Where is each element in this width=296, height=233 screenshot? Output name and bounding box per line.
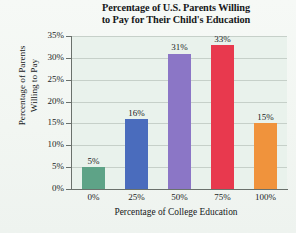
bar-value-label: 31%: [160, 42, 200, 52]
y-axis-tick-label: 5%: [24, 162, 64, 171]
x-axis-title: Percentage of College Education: [60, 207, 292, 217]
x-axis-tick-label: 50%: [157, 192, 203, 202]
y-axis-tick-label: 35%: [24, 31, 64, 40]
y-axis-tick-label: 20%: [24, 97, 64, 106]
chart-title-line-1: Percentage of U.S. Parents Willing: [60, 2, 292, 14]
y-axis-tick: [66, 145, 71, 146]
x-axis-tick-label: 25%: [114, 192, 160, 202]
y-axis-tick-label: 10%: [24, 140, 64, 149]
bar: [168, 54, 191, 190]
bar-value-label: 5%: [74, 156, 114, 166]
bar: [254, 123, 277, 189]
chart-page: Percentage of U.S. Parents Willing to Pa…: [0, 0, 296, 233]
y-axis-tick-label: 0%: [24, 184, 64, 193]
y-axis-tick: [66, 58, 71, 59]
x-axis-tick-label: 0%: [71, 192, 117, 202]
y-axis-tick: [66, 80, 71, 81]
y-axis-tick-label: 30%: [24, 53, 64, 62]
bar-value-label: 15%: [246, 112, 286, 122]
x-axis-tick-label: 100%: [243, 192, 289, 202]
chart-title-line-2: to Pay for Their Child's Education: [60, 14, 292, 26]
bar: [82, 167, 105, 189]
y-axis-tick-label: 25%: [24, 75, 64, 84]
bar-value-label: 16%: [117, 108, 157, 118]
x-axis-tick-label: 75%: [200, 192, 246, 202]
bar: [125, 119, 148, 189]
chart-title: Percentage of U.S. Parents Willing to Pa…: [60, 2, 292, 26]
x-axis-line: [71, 189, 288, 190]
y-axis-tick: [66, 123, 71, 124]
bar-value-label: 33%: [203, 34, 243, 44]
y-axis-tick: [66, 189, 71, 190]
y-axis-line: [71, 36, 72, 190]
gridline: [72, 36, 287, 37]
y-axis-tick: [66, 102, 71, 103]
bar: [211, 45, 234, 189]
y-axis-tick: [66, 36, 71, 37]
y-axis-tick: [66, 167, 71, 168]
y-axis-tick-label: 15%: [24, 118, 64, 127]
